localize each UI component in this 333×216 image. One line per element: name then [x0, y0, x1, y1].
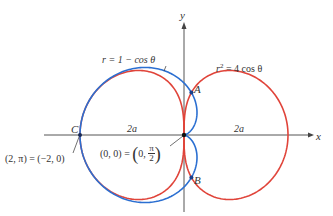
point-c-label: C: [71, 124, 78, 135]
point-b-marker: [189, 175, 193, 179]
c-coordinates: (2, π) = (−2, 0): [5, 154, 65, 164]
origin-coordinates: (0, 0) = (0, π2): [100, 144, 161, 163]
origin-zero: 0,: [138, 148, 148, 159]
origin-label-leader: [170, 136, 183, 146]
cardioid-equation-text: r = 1 − cos θ: [102, 54, 155, 65]
x-axis-label: x: [316, 131, 321, 142]
y-axis-label: y: [180, 10, 185, 21]
lemniscate-equation: r2 = 4 cos θ: [216, 63, 262, 74]
point-b-label: B: [194, 175, 201, 186]
origin-marker: [182, 133, 186, 137]
polar-plot: [0, 0, 333, 216]
x-axis-arrow-icon: [308, 133, 314, 138]
point-a-label: A: [194, 84, 201, 95]
c-label-leader: [73, 137, 79, 153]
left-2a-label: 2a: [127, 124, 137, 134]
origin-lhs: (0, 0) =: [100, 148, 132, 159]
lemniscate-rest: = 4 cos θ: [223, 63, 262, 74]
cardioid-equation: r = 1 − cos θ: [102, 55, 155, 65]
point-c-marker: [78, 133, 82, 137]
origin-close-paren: ): [155, 144, 161, 164]
right-2a-label: 2a: [234, 124, 244, 134]
point-a-marker: [189, 91, 193, 95]
y-axis-arrow-icon: [182, 22, 187, 29]
